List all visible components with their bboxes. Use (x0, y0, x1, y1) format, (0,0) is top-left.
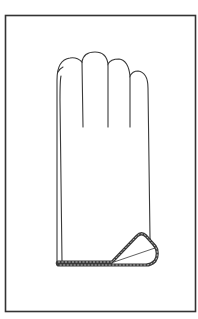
cuff-band (57, 234, 157, 265)
glove-illustration (0, 0, 198, 319)
frame-border (6, 16, 196, 312)
